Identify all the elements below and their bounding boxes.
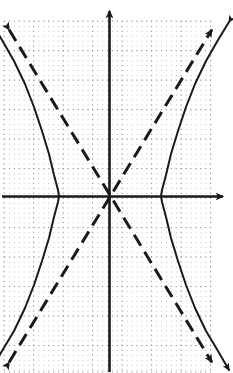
hyperbola-figure [0,0,233,373]
plot-canvas [0,0,233,373]
